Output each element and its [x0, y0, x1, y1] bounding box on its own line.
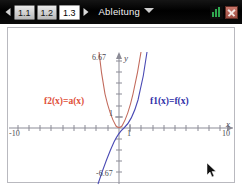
page-tab-1-2[interactable]: 1.2 [37, 5, 58, 20]
document-title-bar[interactable]: Ableitung [92, 0, 210, 24]
y-axis-name-label: y [124, 53, 128, 63]
x-unit-label: 1 [127, 129, 131, 138]
f1-function-label[interactable]: f1(x)=f(x) [150, 96, 189, 106]
x-axis-name-label: x [226, 119, 230, 129]
y-max-label: 6.67 [92, 53, 106, 62]
x-max-label: 10 [222, 129, 230, 138]
calculator-screen: 1.1 1.2 1.3 Ableitung [0, 0, 242, 190]
f2-function-label[interactable]: f2(x)=a(x) [44, 96, 84, 106]
graph-canvas[interactable]: 6.67 y 1 -10 10 1 x -6.67 f2(x)=a(x) f1(… [0, 24, 242, 190]
top-toolbar: 1.1 1.2 1.3 Ableitung [0, 0, 242, 24]
chevron-down-icon[interactable] [144, 8, 154, 13]
graph-plot [0, 24, 242, 190]
page-tab-1-3[interactable]: 1.3 [59, 5, 80, 20]
close-icon[interactable] [225, 6, 238, 19]
page-tab-1-1[interactable]: 1.1 [14, 5, 35, 20]
mouse-pointer-icon [207, 163, 217, 178]
battery-icon [210, 6, 223, 19]
y-min-label: -6.67 [96, 169, 113, 178]
y-unit-label: 1 [109, 109, 113, 118]
chevron-left-icon[interactable] [3, 4, 12, 20]
chevron-right-icon[interactable] [82, 4, 91, 20]
x-min-label: -10 [9, 129, 20, 138]
status-icon-group [210, 6, 240, 19]
document-title-text: Ableitung [99, 6, 140, 17]
